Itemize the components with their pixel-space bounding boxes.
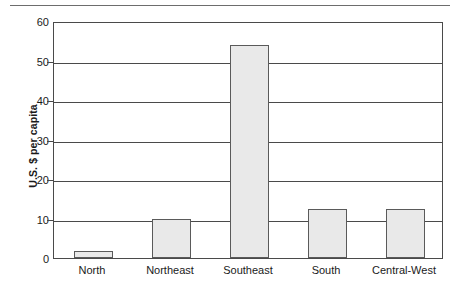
y-tick-label-0: 0 (3, 254, 49, 265)
y-tick-label-20: 20 (3, 175, 49, 186)
x-tick-label-south: South (287, 263, 365, 283)
x-axis-tick-labels: NorthNortheastSoutheastSouthCentral-West (53, 263, 443, 283)
y-tick-label-10: 10 (3, 214, 49, 225)
bar-central-west (386, 209, 425, 258)
x-tick-label-southeast: Southeast (209, 263, 287, 283)
y-axis-ticks: 0102030405060 (0, 22, 49, 259)
bar-northeast (152, 219, 191, 259)
bar-south (308, 209, 347, 258)
x-tick-label-northeast: Northeast (131, 263, 209, 283)
bar-southeast (230, 45, 269, 258)
y-tick-label-60: 60 (3, 17, 49, 28)
x-tick-label-north: North (53, 263, 131, 283)
y-tick-label-40: 40 (3, 96, 49, 107)
plot-area (53, 22, 443, 259)
bar-chart-figure: U.S. $ per capita 0102030405060 NorthNor… (0, 0, 459, 293)
y-tick-label-30: 30 (3, 135, 49, 146)
x-tick-label-central-west: Central-West (365, 263, 443, 283)
bar-north (74, 251, 113, 258)
y-tick-label-50: 50 (3, 56, 49, 67)
